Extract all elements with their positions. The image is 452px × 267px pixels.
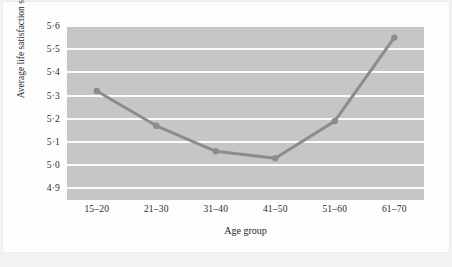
plot-area (67, 26, 424, 200)
y-axis-tick-label: 5·1 (47, 137, 60, 147)
x-axis-tick-label: 21–30 (144, 204, 169, 214)
y-axis-tick-label: 5·0 (47, 160, 60, 170)
x-axis-title: Age group (67, 225, 424, 236)
x-axis-tick-labels: 15–2021–3031–4041–5051–6061–70 (67, 204, 424, 220)
line-chart: 4·95·05·15·25·35·45·55·6 Average life sa… (3, 2, 449, 252)
data-point-marker (272, 155, 278, 161)
data-point-marker (94, 88, 100, 94)
y-axis-tick-label: 5·2 (47, 114, 60, 124)
y-axis-tick-label: 5·6 (47, 21, 60, 31)
x-axis-tick-label: 41–50 (263, 204, 288, 214)
data-point-marker (332, 118, 338, 124)
y-axis-tick-label: 5·5 (47, 44, 60, 54)
figure-card: 4·95·05·15·25·35·45·55·6 Average life sa… (3, 2, 449, 252)
x-axis-tick-label: 51–60 (322, 204, 347, 214)
data-point-marker (391, 34, 397, 40)
y-axis-tick-label: 5·3 (47, 91, 60, 101)
x-axis-tick-label: 15–20 (84, 204, 109, 214)
x-axis-tick-label: 61–70 (382, 204, 407, 214)
data-point-marker (213, 148, 219, 154)
y-axis-tick-labels: 4·95·05·15·25·35·45·55·6 (3, 26, 65, 200)
y-axis-tick-label: 5·4 (47, 67, 60, 77)
x-axis-tick-label: 31–40 (203, 204, 228, 214)
y-axis-tick-label: 4·9 (47, 183, 60, 193)
data-point-marker (153, 123, 159, 129)
series-polyline (97, 38, 395, 159)
series-line-layer (67, 26, 424, 200)
y-axis-title: Average life satisfaction score (14, 0, 28, 121)
